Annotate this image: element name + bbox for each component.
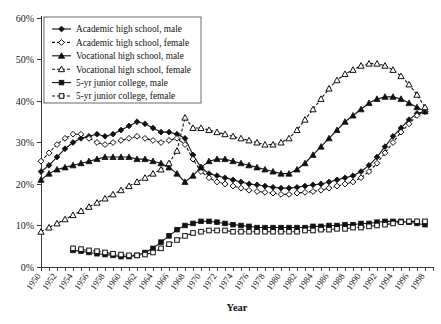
data-point — [143, 252, 148, 257]
series-0 — [38, 108, 428, 191]
data-point — [391, 221, 396, 226]
x-tick-label: 1984 — [296, 271, 315, 292]
y-tick-label: 50% — [16, 54, 34, 65]
legend: Academic high school, maleAcademic high … — [44, 17, 201, 103]
data-point — [167, 242, 172, 247]
chart-container: 0%10%20%30%40%50%60%19501952195419561958… — [0, 0, 441, 324]
legend-label: Vocational high school, female — [76, 65, 191, 75]
data-point — [214, 179, 220, 185]
data-point — [215, 220, 220, 225]
data-point — [182, 135, 188, 141]
data-point — [239, 223, 244, 228]
data-point — [318, 181, 324, 187]
data-point — [383, 222, 388, 227]
data-point — [207, 219, 212, 224]
data-point — [191, 221, 196, 226]
data-point — [183, 223, 188, 228]
data-point — [166, 160, 172, 166]
data-point — [230, 183, 236, 189]
data-point — [270, 184, 276, 190]
data-point — [198, 125, 204, 131]
x-tick-label: 1998 — [408, 271, 427, 292]
data-point — [399, 220, 404, 225]
data-point — [174, 148, 180, 154]
data-point — [59, 80, 64, 85]
x-tick-label: 1954 — [56, 271, 75, 292]
data-point — [134, 133, 140, 139]
data-point — [254, 182, 260, 188]
data-point — [46, 224, 52, 230]
data-point — [166, 129, 172, 135]
data-point — [71, 246, 76, 251]
data-point — [215, 228, 220, 233]
data-point — [46, 150, 52, 156]
data-point — [158, 166, 164, 172]
data-point — [230, 177, 236, 183]
x-tick-label: 1964 — [136, 271, 155, 292]
data-point — [223, 228, 228, 233]
data-point — [94, 131, 100, 137]
data-point — [286, 185, 292, 191]
data-point — [78, 208, 84, 214]
data-point — [118, 127, 124, 133]
data-point — [326, 185, 332, 191]
data-point — [214, 173, 220, 179]
data-point — [310, 182, 316, 188]
data-point — [294, 190, 300, 196]
data-point — [263, 229, 268, 234]
data-point — [94, 200, 100, 206]
data-point — [367, 224, 372, 229]
x-axis-ticks: 1950195219541956195819601962196419661968… — [24, 267, 433, 292]
data-point — [54, 220, 60, 226]
data-point — [262, 189, 268, 195]
data-point — [295, 229, 300, 234]
data-point — [142, 135, 148, 141]
data-point — [294, 184, 300, 190]
data-point — [374, 61, 380, 67]
data-point — [279, 229, 284, 234]
data-point — [79, 247, 84, 252]
y-tick-label: 10% — [16, 220, 34, 231]
x-tick-label: 1968 — [168, 271, 187, 292]
data-point — [278, 191, 284, 197]
data-point — [366, 100, 372, 106]
data-point — [150, 171, 156, 177]
data-point — [375, 223, 380, 228]
data-point — [110, 191, 116, 197]
data-point — [319, 227, 324, 232]
data-point — [159, 246, 164, 251]
y-axis-ticks: 0%10%20%30%40%50%60% — [16, 13, 41, 273]
data-point — [239, 229, 244, 234]
data-point — [278, 185, 284, 191]
x-tick-label: 1952 — [40, 271, 59, 291]
data-point — [62, 216, 68, 222]
x-tick-label: 1978 — [248, 271, 267, 292]
data-point — [70, 212, 76, 218]
y-tick-label: 0% — [21, 262, 34, 273]
y-tick-label: 20% — [16, 179, 34, 190]
data-point — [110, 140, 116, 146]
data-point — [214, 129, 220, 135]
data-point — [207, 228, 212, 233]
data-point — [175, 238, 180, 243]
data-point — [278, 139, 284, 145]
data-point — [350, 173, 356, 179]
data-point — [414, 104, 420, 110]
data-point — [415, 219, 420, 224]
data-point — [286, 135, 292, 141]
x-tick-label: 1980 — [264, 271, 283, 292]
data-point — [246, 181, 252, 187]
data-point — [271, 229, 276, 234]
series-1 — [38, 108, 428, 197]
x-axis-title: Year — [227, 302, 248, 313]
x-tick-label: 1960 — [104, 271, 123, 292]
data-point — [334, 183, 340, 189]
data-point — [127, 253, 132, 258]
data-point — [150, 125, 156, 131]
data-point — [238, 185, 244, 191]
data-point — [406, 100, 412, 106]
x-tick-label: 1994 — [376, 271, 395, 292]
x-tick-label: 1976 — [232, 271, 251, 292]
data-point — [222, 175, 228, 181]
x-tick-label: 1972 — [200, 271, 219, 291]
